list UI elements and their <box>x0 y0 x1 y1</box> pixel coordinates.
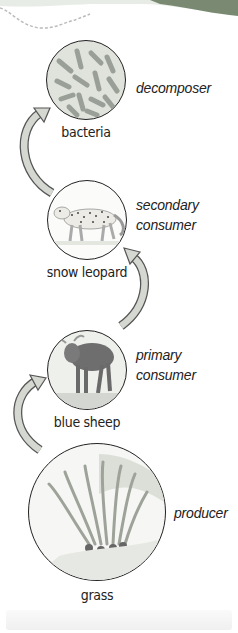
curved-arrow-icon <box>24 108 52 193</box>
role-label: decomposer <box>136 78 211 98</box>
bacteria-illustration <box>46 40 126 120</box>
curved-arrow-icon <box>18 375 46 450</box>
snow-leopard-illustration <box>47 180 127 260</box>
role-label: producer <box>174 503 228 523</box>
grass-illustration <box>28 443 166 581</box>
role-line: secondary <box>136 195 199 215</box>
role-label: primary consumer <box>136 345 196 385</box>
organism-label: blue sheep <box>30 414 144 430</box>
role-line: primary <box>136 345 196 365</box>
role-line: consumer <box>136 215 199 235</box>
blue-sheep-illustration <box>47 330 127 410</box>
organism-label: snow leopard <box>30 264 144 280</box>
footer-decoration <box>6 610 232 630</box>
role-label: secondary consumer <box>136 195 199 235</box>
curved-arrow-icon <box>121 248 145 326</box>
organism-label: grass <box>50 587 144 603</box>
role-line: consumer <box>136 365 196 385</box>
organism-label: bacteria <box>46 124 126 140</box>
